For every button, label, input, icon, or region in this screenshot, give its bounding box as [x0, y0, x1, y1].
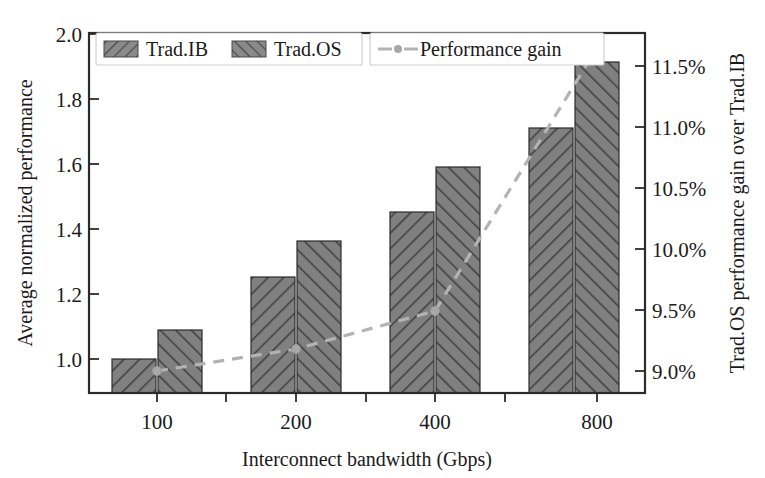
y2-tick-label-11-0: 11.0%	[652, 116, 705, 140]
y-tick-label-1-6: 1.6	[56, 153, 82, 177]
legend-label-trad-os: Trad.OS	[274, 38, 342, 60]
bar-trad-ib-200[interactable]	[251, 277, 295, 393]
chart-legend: Trad.IB Trad.OS Performance gain	[96, 33, 604, 65]
y2-tick-label-10-0: 10.0%	[652, 238, 706, 262]
y-tick-label-1-2: 1.2	[56, 283, 82, 307]
x-tick-label-100: 100	[141, 410, 173, 434]
y-tick-label-1-4: 1.4	[56, 218, 83, 242]
x-tick-label-400: 400	[419, 410, 451, 434]
y-axis-title: Average normalized performance	[14, 79, 37, 346]
y2-tick-label-9-0: 9.0%	[652, 360, 696, 384]
y2-axis-title: Trad.OS performance gain over Trad.IB	[726, 53, 749, 373]
bar-trad-os-100[interactable]	[158, 330, 202, 393]
chart-figure: 2.0 1.8 1.6 1.4 1.2 1.0 11.5% 11.0% 10.5…	[0, 0, 765, 478]
gain-point-100[interactable]	[153, 367, 162, 376]
chart-svg: 2.0 1.8 1.6 1.4 1.2 1.0 11.5% 11.0% 10.5…	[0, 0, 765, 478]
bar-trad-os-200[interactable]	[297, 241, 341, 393]
right-axis-tick-labels: 11.5% 11.0% 10.5% 10.0% 9.5% 9.0%	[652, 55, 706, 384]
y-tick-label-1-8: 1.8	[56, 88, 82, 112]
left-axis-tick-labels: 2.0 1.8 1.6 1.4 1.2 1.0	[56, 23, 83, 372]
legend-label-trad-ib: Trad.IB	[146, 38, 208, 60]
x-axis-ticks	[157, 393, 597, 402]
gain-point-400[interactable]	[431, 307, 440, 316]
y2-tick-label-10-5: 10.5%	[652, 177, 706, 201]
gain-point-200[interactable]	[292, 345, 301, 354]
x-tick-label-200: 200	[280, 410, 312, 434]
x-axis-title: Interconnect bandwidth (Gbps)	[242, 448, 492, 471]
legend-swatch-trad-os	[232, 41, 266, 57]
x-tick-label-800: 800	[581, 410, 613, 434]
x-axis-tick-labels: 100 200 400 800	[141, 410, 613, 434]
legend-swatch-trad-ib	[104, 41, 138, 57]
y2-tick-label-9-5: 9.5%	[652, 299, 696, 323]
bar-trad-os-800[interactable]	[575, 62, 619, 393]
bar-trad-os-400[interactable]	[436, 167, 480, 393]
bar-trad-ib-800[interactable]	[529, 128, 573, 393]
y-tick-label-1-0: 1.0	[56, 348, 82, 372]
y-tick-label-2-0: 2.0	[56, 23, 82, 47]
legend-label-performance-gain: Performance gain	[420, 38, 562, 61]
y2-tick-label-11-5: 11.5%	[652, 55, 705, 79]
bar-trad-ib-400[interactable]	[390, 212, 434, 393]
bar-trad-ib-100[interactable]	[112, 359, 156, 393]
